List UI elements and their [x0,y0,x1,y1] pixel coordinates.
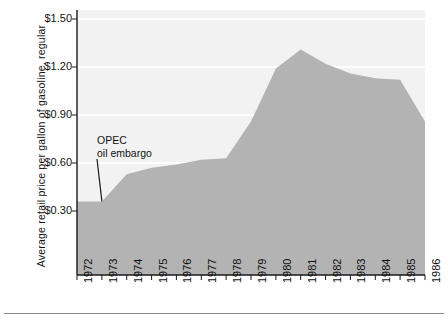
x-tick-label: 1985 [405,259,417,283]
x-tick-label: 1980 [281,259,293,283]
x-tick-label: 1983 [355,259,367,283]
x-tick-label: 1981 [306,259,318,283]
y-tick-marks [72,19,77,211]
x-tick-label: 1986 [430,259,442,283]
x-tick-label: 1979 [256,259,268,283]
x-tick-label: 1976 [181,259,193,283]
chart-figure: Average retail price per gallon of gasol… [0,0,448,323]
footer-divider [4,313,444,314]
x-tick-label: 1974 [132,259,144,283]
x-tick-label: 1984 [380,259,392,283]
x-tick-label: 1972 [82,259,94,283]
x-tick-label: 1973 [107,259,119,283]
x-tick-label: 1975 [157,259,169,283]
annotation-opec-line1: OPEC [97,134,127,147]
annotation-opec-line2: oil embargo [97,147,152,160]
x-tick-marks [77,275,425,280]
x-tick-label: 1982 [331,259,343,283]
x-tick-label: 1978 [231,259,243,283]
x-tick-label: 1977 [206,259,218,283]
